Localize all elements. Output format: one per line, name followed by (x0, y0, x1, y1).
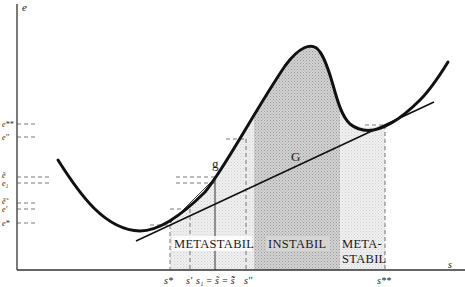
y-axis-label: e (22, 1, 27, 13)
region-label-instabil: INSTABIL (268, 237, 326, 251)
x-tick-s-star: s* (164, 275, 173, 286)
x-tick-s-double-star: s** (377, 275, 391, 286)
x-tick-s-prime: s' (186, 275, 193, 286)
region-label-meta: META- (342, 237, 382, 251)
curve-label-g: g (212, 156, 219, 171)
instabil-region (254, 0, 340, 270)
curve-label-G: G (291, 149, 300, 164)
y-tick-e-star: e* (2, 219, 10, 228)
x-tick-labels: s* s' s₁ = s̃ = s̃̃ s'' s** (164, 275, 391, 286)
x-tick-s1: s₁ = s̃ = s̃̃ (196, 275, 235, 286)
x-axis-label: s (448, 259, 452, 270)
y-tick-e1: e₁ (2, 179, 9, 188)
y-tick-labels: e** e'' ẽ e₁ ẽ̃ e' e* (2, 120, 14, 228)
y-tick-e-double-prime: e'' (2, 133, 9, 142)
region-label-metastabil: METASTABIL (174, 237, 254, 251)
y-tick-e-prime: e' (2, 205, 8, 214)
shaded-regions (170, 0, 385, 270)
y-tick-e-double-star: e** (2, 120, 14, 129)
phase-stability-diagram: e s g G e** e'' ẽ e₁ ẽ̃ e' e* (0, 0, 465, 287)
x-tick-s-double-prime: s'' (244, 275, 253, 286)
region-label-stabil: STABIL (342, 252, 387, 266)
